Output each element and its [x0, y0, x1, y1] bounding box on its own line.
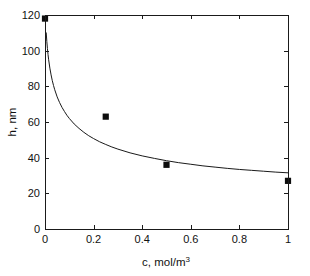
x-tick-label: 0.6 — [183, 233, 198, 245]
x-axis-title: c, mol/m3 — [142, 255, 190, 268]
y-tick-label: 0 — [34, 223, 40, 235]
y-axis-tick-labels: 020406080100120 — [22, 9, 40, 235]
x-axis-tick-labels: 00.20.40.60.81 — [42, 233, 291, 245]
x-tick-label: 1 — [285, 233, 291, 245]
x-tick-label: 0.8 — [232, 233, 247, 245]
x-axis-title-exponent: 3 — [186, 255, 191, 264]
y-tick-label: 40 — [28, 152, 40, 164]
x-tick-label: 0.2 — [86, 233, 101, 245]
data-point-marker — [163, 162, 169, 168]
data-point-marker — [103, 114, 109, 120]
y-tick-label: 120 — [22, 9, 40, 21]
x-tick-label: 0 — [42, 233, 48, 245]
x-tick-label: 0.4 — [135, 233, 150, 245]
y-axis-title: h, nm — [6, 108, 18, 137]
x-axis-title-base: c, mol/m — [142, 256, 185, 268]
y-tick-label: 80 — [28, 80, 40, 92]
y-tick-label: 60 — [28, 116, 40, 128]
y-tick-label: 20 — [28, 187, 40, 199]
scatter-plot-canvas: 00.20.40.60.81 020406080100120 c, mol/m3… — [0, 0, 310, 276]
plot-area-background — [45, 15, 288, 229]
chart-figure: 00.20.40.60.81 020406080100120 c, mol/m3… — [0, 0, 310, 276]
y-tick-label: 100 — [22, 45, 40, 57]
